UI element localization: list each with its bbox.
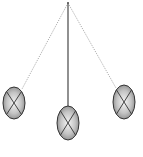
bob-right-extreme [113,85,135,119]
bob-equilibrium [57,106,79,140]
bob-left-extreme [3,87,25,119]
pendulum-diagram [0,0,143,157]
left-string-dotted [22,3,68,89]
right-string-dotted [68,3,116,88]
pendulum-svg [0,0,143,157]
